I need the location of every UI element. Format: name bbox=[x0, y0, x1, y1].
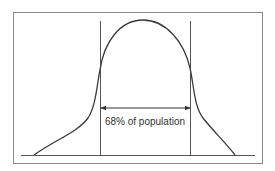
normal-curve bbox=[34, 20, 235, 155]
bell-curve-diagram: 68% of population bbox=[0, 0, 275, 171]
frame bbox=[14, 13, 263, 164]
population-label: 68% of population bbox=[105, 116, 185, 127]
